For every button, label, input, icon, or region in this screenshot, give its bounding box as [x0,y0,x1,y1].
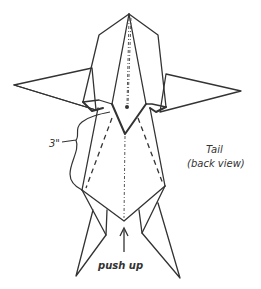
tail-subtitle: (back view) [187,158,245,169]
body-center-line [124,136,125,218]
push-up-arrow [120,228,128,252]
hood-outline [83,14,166,107]
right-wing [160,74,241,112]
measurement-line [62,112,110,190]
bottom-v [82,186,165,221]
right-leg [142,186,180,278]
v-notch [112,104,146,134]
body-right-edge [150,108,165,186]
push-up-label: push up [98,260,143,271]
measurement-label: 3" [49,138,60,149]
right-valley-fold [138,118,163,184]
tail-diagram: Tail (back view) 3" push up [0,0,261,289]
left-valley-fold [86,118,112,188]
tail-title: Tail [206,144,223,155]
